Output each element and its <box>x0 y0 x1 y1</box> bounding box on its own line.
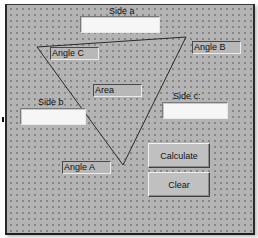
area-output: Area <box>93 84 142 97</box>
angle-a-output: Angle A <box>62 161 111 174</box>
side-c-input[interactable] <box>162 102 228 119</box>
side-a-label: Side a <box>109 6 135 16</box>
angle-c-output: Angle C <box>50 47 99 60</box>
side-b-label: Side b <box>38 97 64 107</box>
calculate-button[interactable]: Calculate <box>148 143 210 168</box>
clear-button[interactable]: Clear <box>148 172 210 197</box>
angle-b-output: Angle B <box>192 41 241 54</box>
side-a-input[interactable] <box>80 16 160 33</box>
side-c-label: Side c: <box>173 91 201 101</box>
side-b-input[interactable] <box>20 108 86 125</box>
